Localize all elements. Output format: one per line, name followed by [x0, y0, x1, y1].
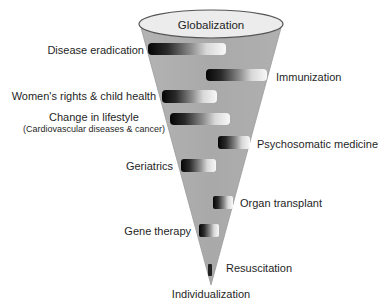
bar-womens-rights — [162, 90, 217, 103]
bar-psychosomatic — [218, 136, 250, 149]
label-lifestyle-sub: (Cardiovascular diseases & cancer) — [20, 124, 168, 134]
bar-organ-transplant — [213, 196, 233, 209]
label-resuscitation: Resuscitation — [226, 262, 292, 274]
bar-geriatrics — [181, 159, 216, 172]
label-immunization: Immunization — [276, 71, 341, 83]
top-label: Globalization — [171, 19, 251, 31]
bar-disease-eradication — [148, 43, 226, 55]
bar-lifestyle — [170, 113, 230, 125]
cone-body — [140, 24, 282, 285]
bar-immunization — [206, 69, 267, 81]
bar-resuscitation — [208, 264, 212, 276]
bottom-label: Individualization — [166, 288, 256, 300]
label-lifestyle: Change in lifestyle — [20, 111, 168, 123]
label-geriatrics: Geriatrics — [126, 160, 173, 172]
bar-gene-therapy — [199, 224, 219, 237]
label-psychosomatic: Psychosomatic medicine — [257, 138, 378, 150]
label-disease-eradication: Disease eradication — [47, 44, 144, 56]
label-womens-rights: Women's rights & child health — [12, 90, 156, 102]
funnel-diagram: Globalization Disease eradication Immuni… — [0, 0, 384, 307]
label-gene-therapy: Gene therapy — [124, 225, 191, 237]
label-organ-transplant: Organ transplant — [240, 197, 322, 209]
